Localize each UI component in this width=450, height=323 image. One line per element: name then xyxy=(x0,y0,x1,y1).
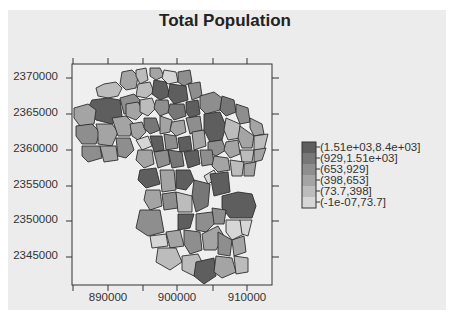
x-axis-top-ticks xyxy=(73,58,247,64)
legend-colorkey xyxy=(302,142,320,208)
x-tick-label: 890000 xyxy=(78,291,138,303)
y-tick-label: 2355000 xyxy=(8,178,58,190)
y-axis-ticks xyxy=(66,78,72,257)
y-tick-label: 2350000 xyxy=(8,213,58,225)
y-tick-label: 2365000 xyxy=(8,106,58,118)
y-tick-label: 2360000 xyxy=(8,142,58,154)
y-tick-label: 2345000 xyxy=(8,249,58,261)
x-tick-label: 910000 xyxy=(217,291,277,303)
legend-label: (-1e-07,73.7] xyxy=(320,197,386,208)
y-axis-right-ticks xyxy=(272,78,279,257)
y-tick-label: 2370000 xyxy=(8,70,58,82)
x-tick-label: 900000 xyxy=(147,291,207,303)
